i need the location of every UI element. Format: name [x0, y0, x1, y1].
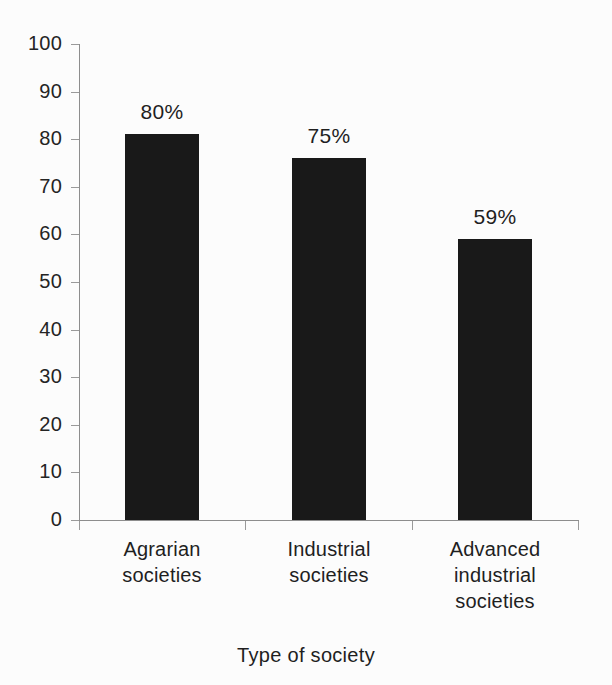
y-axis-tick-label-text: 90 — [16, 81, 62, 101]
bar — [292, 158, 366, 520]
y-axis-tick — [71, 44, 79, 45]
y-axis-tick-label: 40 — [0, 319, 62, 339]
y-axis-line — [79, 44, 80, 521]
bar — [458, 239, 532, 520]
x-axis-tick — [578, 521, 579, 530]
y-axis-tick — [71, 139, 79, 140]
x-axis-tick — [79, 521, 80, 530]
x-axis-category-label-line: Agrarian — [82, 536, 242, 562]
y-axis-tick-label-text: 70 — [16, 176, 62, 196]
y-axis-tick-label-text: 20 — [16, 414, 62, 434]
y-axis-tick-label: 80 — [0, 128, 62, 148]
y-axis-tick-label: 90 — [0, 81, 62, 101]
x-axis-tick — [245, 521, 246, 530]
bar — [125, 134, 199, 520]
y-axis-tick — [71, 234, 79, 235]
y-axis-tick-label: 0 — [0, 509, 62, 529]
y-axis-tick-label-text: 0 — [16, 509, 62, 529]
x-axis-category-label-line: societies — [415, 588, 575, 614]
y-axis-tick-label: 70 — [0, 176, 62, 196]
y-axis-tick-label: 50 — [0, 271, 62, 291]
x-axis-category-label: Advancedindustrialsocieties — [415, 536, 575, 614]
x-axis-category-label-line: societies — [249, 562, 409, 588]
y-axis-tick-label: 30 — [0, 366, 62, 386]
y-axis-tick — [71, 520, 79, 521]
x-axis-category-label: Industrialsocieties — [249, 536, 409, 588]
x-axis-category-label-line: societies — [82, 562, 242, 588]
x-axis-category-label-line: Industrial — [249, 536, 409, 562]
y-axis-tick-label: 20 — [0, 414, 62, 434]
x-axis-tick — [412, 521, 413, 530]
x-axis-title: Type of society — [0, 643, 612, 667]
bar-chart: 0102030405060708090100 80%75%59% Agraria… — [0, 0, 612, 685]
x-axis-category-label: Agrariansocieties — [82, 536, 242, 588]
y-axis-tick-label-text: 80 — [16, 128, 62, 148]
y-axis-tick — [71, 282, 79, 283]
bar-value-label: 80% — [102, 101, 222, 123]
y-axis-tick — [71, 187, 79, 188]
y-axis-tick-label: 100 — [0, 33, 62, 53]
y-axis-tick-label-text: 50 — [16, 271, 62, 291]
y-axis-tick-label-text: 30 — [16, 366, 62, 386]
y-axis-tick-label-text: 40 — [16, 319, 62, 339]
x-axis-category-label-line: Advanced — [415, 536, 575, 562]
y-axis-tick-label: 60 — [0, 223, 62, 243]
y-axis-tick-label-text: 60 — [16, 223, 62, 243]
y-axis-tick-label: 10 — [0, 461, 62, 481]
y-axis-tick — [71, 425, 79, 426]
x-axis-category-label-line: industrial — [415, 562, 575, 588]
bar-value-label: 75% — [269, 125, 389, 147]
y-axis-tick — [71, 472, 79, 473]
y-axis-tick — [71, 377, 79, 378]
y-axis-tick — [71, 330, 79, 331]
bar-value-label: 59% — [435, 206, 555, 228]
x-axis-line — [79, 520, 579, 521]
y-axis-tick-label-text: 10 — [16, 461, 62, 481]
y-axis-tick-label-text: 100 — [16, 33, 62, 53]
y-axis-tick — [71, 92, 79, 93]
